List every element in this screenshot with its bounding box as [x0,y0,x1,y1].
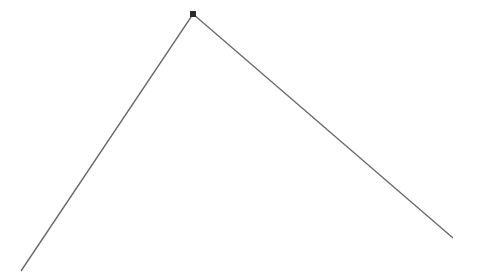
diagram-canvas [0,0,481,279]
vertex-handle[interactable] [190,11,196,17]
angle-polyline [21,14,453,271]
